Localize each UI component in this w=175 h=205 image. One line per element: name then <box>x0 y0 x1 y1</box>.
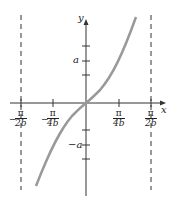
denominator: 2b <box>145 119 157 128</box>
y-axis-label: y <box>78 13 84 23</box>
denominator: 4b <box>47 119 59 128</box>
x-axis-label: x <box>161 105 167 115</box>
tangent-graph <box>0 0 175 205</box>
x-tick-label-neg-pi-4b: π 4b <box>47 109 59 128</box>
denominator: 4b <box>113 119 125 128</box>
y-axis-arrow-icon <box>84 19 89 25</box>
x-tick-label-pi-4b: π 4b <box>113 109 125 128</box>
y-tick-label-a: a <box>73 55 79 65</box>
x-tick-label-pi-2b: π 2b <box>145 109 157 128</box>
x-tick-label-neg-pi-2b: π 2b <box>15 109 27 128</box>
y-tick-label-neg-a: −a <box>68 140 82 150</box>
denominator: 2b <box>15 119 27 128</box>
